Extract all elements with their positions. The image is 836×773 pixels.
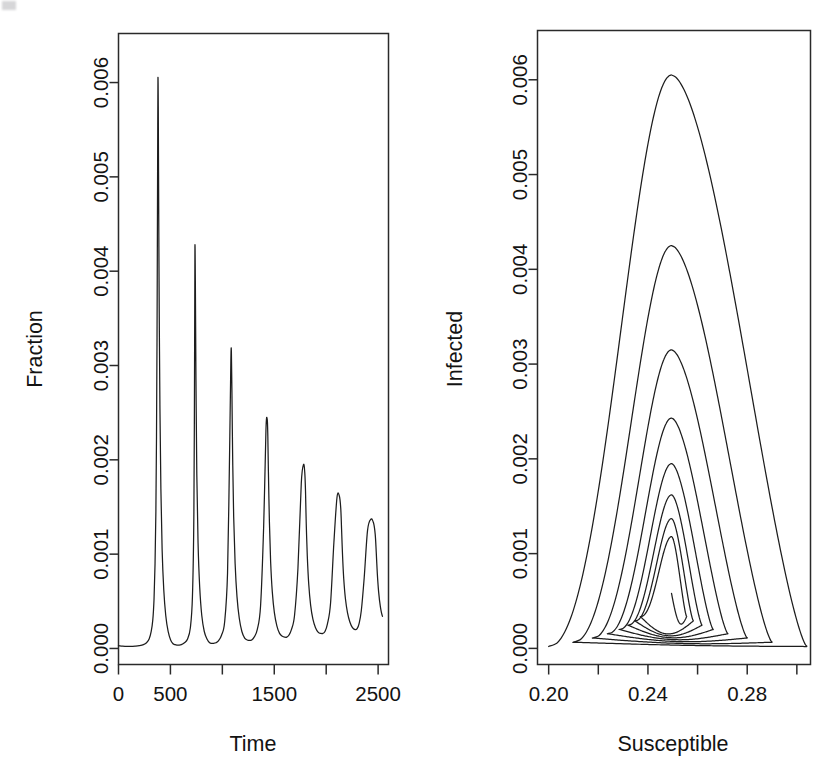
y-tick-label: 0.004	[508, 244, 531, 295]
x-tick-label: 1500	[251, 682, 297, 705]
spiral-trajectory	[549, 75, 807, 647]
left-x-axis-tick-labels: 050015002500	[113, 682, 401, 705]
right-panel: 0.0000.0010.0020.0030.0040.0050.006 0.20…	[443, 31, 811, 757]
right-x-axis-tick-labels: 0.200.240.28	[529, 682, 767, 705]
right-x-axis-ticks	[549, 665, 797, 675]
y-tick-label: 0.006	[89, 57, 112, 108]
y-tick-label: 0.005	[89, 151, 112, 202]
x-tick-label: 0.24	[628, 682, 668, 705]
y-tick-label: 0.001	[89, 528, 112, 579]
y-tick-label: 0.003	[89, 340, 112, 391]
y-tick-label: 0.000	[508, 623, 531, 674]
x-tick-label: 2500	[355, 682, 401, 705]
y-tick-label: 0.006	[508, 54, 531, 105]
x-tick-label: 500	[153, 682, 187, 705]
y-tick-label: 0.002	[89, 434, 112, 485]
x-tick-label: 0	[113, 682, 124, 705]
left-panel: 0.0000.0010.0020.0030.0040.0050.006 0500…	[23, 34, 401, 757]
right-plot-box	[538, 31, 811, 665]
right-y-axis-title: Infected	[443, 311, 467, 388]
fraction-time-curve	[119, 77, 383, 646]
right-x-axis-title: Susceptible	[617, 732, 728, 756]
x-tick-label: 0.20	[529, 682, 569, 705]
y-tick-label: 0.000	[89, 623, 112, 674]
y-tick-label: 0.003	[508, 338, 531, 389]
epidemic-dynamics-figure: 0.0000.0010.0020.0030.0040.0050.006 0500…	[0, 0, 836, 773]
left-y-axis-title: Fraction	[23, 310, 47, 388]
x-tick-label: 0.28	[727, 682, 767, 705]
y-tick-label: 0.005	[508, 149, 531, 200]
figure-canvas: 0.0000.0010.0020.0030.0040.0050.006 0500…	[0, 0, 836, 773]
y-tick-label: 0.004	[89, 246, 112, 297]
y-tick-label: 0.001	[508, 528, 531, 579]
left-y-axis-tick-labels: 0.0000.0010.0020.0030.0040.0050.006	[89, 57, 112, 674]
phase-plane-spiral	[549, 75, 807, 647]
right-y-axis-tick-labels: 0.0000.0010.0020.0030.0040.0050.006	[508, 54, 531, 674]
left-x-axis-ticks	[119, 665, 379, 675]
y-tick-label: 0.002	[508, 433, 531, 484]
left-x-axis-title: Time	[230, 732, 277, 756]
